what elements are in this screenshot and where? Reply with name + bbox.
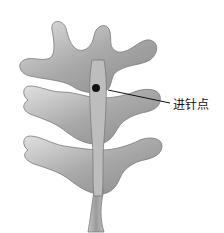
vertebrae-drawing — [0, 0, 224, 233]
insertion-point-label: 进针点 — [173, 95, 209, 112]
spine-illustration — [0, 0, 224, 233]
insertion-point-marker — [92, 84, 100, 92]
